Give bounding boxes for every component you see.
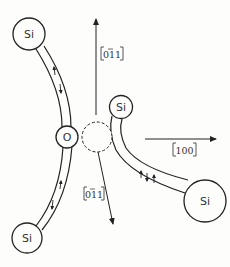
direction-label-right: 100 (173, 143, 196, 156)
direction-text: 100 (175, 145, 193, 156)
bond-oxygen-si-bottom (36, 146, 72, 230)
atom-label: Si (22, 232, 32, 245)
vacancy-site (82, 122, 112, 152)
direction-text: 011 (85, 189, 103, 200)
atom-si-top: Si (13, 18, 45, 50)
atom-si-small: Si (110, 96, 133, 119)
bond-si-top-oxygen (36, 46, 71, 127)
spin-up-arrow (60, 181, 61, 189)
direction-label-up: 011 (101, 47, 123, 60)
atom-si-bottom: Si (12, 223, 42, 253)
direction-arrow-down (98, 152, 113, 224)
atom-label: Si (116, 101, 126, 114)
spin-down-arrow (60, 84, 61, 93)
spin-down-arrow (52, 200, 53, 209)
direction-label-down: 011 (84, 187, 104, 200)
atom-oxygen: O (56, 126, 78, 148)
atom-label: Si (200, 195, 210, 208)
defect-diagram: Si O Si Si Si 011 100 011 (0, 0, 230, 267)
spin-up-arrow (54, 67, 55, 75)
direction-text: 011 (103, 49, 121, 60)
atom-label: Si (24, 28, 34, 41)
atom-si-right: Si (184, 180, 226, 222)
atom-label: O (63, 131, 72, 144)
